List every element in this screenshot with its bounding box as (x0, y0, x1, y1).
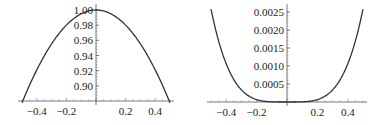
y-tick-label: 0.94 (74, 50, 94, 62)
x-tick-label: 0.2 (119, 105, 133, 117)
charts-canvas: −0.4−0.20.20.40.900.920.940.960.981.00 −… (0, 0, 382, 125)
x-tick-label: −0.4 (27, 105, 47, 117)
y-tick-label: 0.0005 (254, 78, 285, 90)
y-tick-label: 0.96 (74, 34, 94, 46)
y-tick-label: 0.0025 (254, 6, 285, 18)
x-tick-label: 0.4 (341, 106, 355, 118)
y-tick-label: 0.90 (74, 80, 94, 92)
y-tick-label: 0.92 (74, 65, 93, 77)
chart-right-remainder: −0.4−0.20.20.40.00050.00100.00150.00200.… (207, 4, 367, 118)
x-tick-label: −0.2 (56, 105, 76, 117)
x-tick-label: 0.4 (148, 105, 162, 117)
y-tick-label: 0.0015 (254, 42, 285, 54)
y-tick-label: 0.98 (74, 19, 94, 31)
y-tick-label: 0.0020 (254, 24, 285, 36)
x-tick-label: 0.2 (311, 106, 325, 118)
x-tick-label: −0.4 (216, 106, 236, 118)
chart-left-cos: −0.4−0.20.20.40.900.920.940.960.981.00 (18, 4, 174, 117)
y-tick-label: 0.0010 (254, 60, 285, 72)
x-tick-label: −0.2 (247, 106, 267, 118)
